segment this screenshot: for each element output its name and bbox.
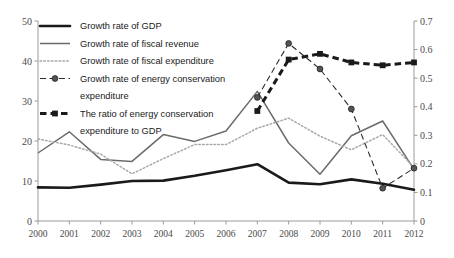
x-axis-tick-label: 2010 [342, 229, 361, 239]
data-point-marker [254, 95, 260, 101]
data-point-marker [348, 106, 354, 112]
left-axis-tick-label: 0 [27, 216, 32, 227]
right-axis-tick-label: 0.2 [420, 158, 433, 169]
x-axis-tick-label: 2007 [248, 229, 267, 239]
right-axis-tick-label: 0.1 [420, 187, 433, 198]
right-axis-tick-label: 0.4 [420, 101, 433, 112]
left-axis-tick-label: 40 [22, 56, 32, 67]
legend-item-label: expenditure [80, 91, 129, 101]
legend-item-label: Growth rate of fiscal expenditure [80, 56, 214, 66]
left-axis-tick-label: 50 [22, 16, 32, 27]
legend-item-label: The ratio of energy conservation [80, 109, 213, 119]
legend-item-label: Growth rate of GDP [80, 21, 162, 31]
data-point-marker [317, 51, 323, 57]
x-axis-tick-label: 2009 [311, 229, 330, 239]
x-axis-tick-label: 2008 [279, 229, 298, 239]
x-axis-tick-label: 2006 [217, 229, 236, 239]
data-point-marker [317, 66, 323, 72]
legend-marker [52, 111, 58, 117]
data-point-marker [254, 108, 260, 114]
x-axis-tick-label: 2000 [29, 229, 48, 239]
data-point-marker [380, 62, 386, 68]
x-axis-tick-label: 2005 [185, 229, 204, 239]
legend-item-5[interactable]: expenditure [80, 91, 129, 101]
x-axis-tick-label: 2002 [91, 229, 110, 239]
x-axis-tick-label: 2011 [373, 229, 392, 239]
legend-item-label: Growth rate of energy conservation [80, 74, 225, 84]
left-axis-tick-label: 20 [22, 136, 32, 147]
data-point-marker [286, 41, 292, 47]
data-point-marker [411, 165, 417, 171]
legend-item-7[interactable]: expenditure to GDP [80, 126, 162, 136]
legend-marker [52, 76, 58, 82]
x-axis-tick-label: 2004 [154, 229, 173, 239]
left-axis-tick-label: 10 [22, 176, 32, 187]
left-axis-tick-label: 30 [22, 96, 32, 107]
data-point-marker [411, 60, 417, 66]
x-axis-tick-label: 2001 [60, 229, 79, 239]
right-axis-tick-label: 0.5 [420, 73, 433, 84]
data-point-marker [380, 185, 386, 191]
data-point-marker [348, 60, 354, 66]
x-axis-tick-label: 2003 [123, 229, 142, 239]
data-point-marker [286, 57, 292, 63]
right-axis-tick-label: 0.3 [420, 130, 433, 141]
right-axis-tick-label: 0.6 [420, 44, 433, 55]
line-chart: 0102030405000.10.20.30.40.50.60.72000200… [0, 0, 454, 258]
legend-item-label: Growth rate of fiscal revenue [80, 39, 199, 49]
chart-container: 0102030405000.10.20.30.40.50.60.72000200… [0, 0, 454, 258]
x-axis-tick-label: 2012 [405, 229, 424, 239]
legend-item-label: expenditure to GDP [80, 126, 162, 136]
right-axis-tick-label: 0.7 [420, 16, 433, 27]
right-axis-tick-label: 0 [420, 216, 425, 227]
